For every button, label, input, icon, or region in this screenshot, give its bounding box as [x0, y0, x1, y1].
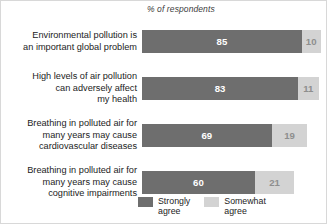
bar-segment-strongly-agree[interactable]: 85: [142, 30, 302, 53]
row-label-line: Breathing in polluted air for: [1, 165, 137, 176]
bar-value-strongly-agree: 83: [215, 84, 226, 94]
bar-track: 60 21: [142, 171, 294, 194]
chart-legend: Strongly agree Somewhat agree: [138, 196, 280, 216]
row-label-line: Environmental pollution is: [1, 30, 137, 41]
row-label: Environmental pollution is an important …: [1, 30, 142, 53]
bar-segment-somewhat-agree[interactable]: 19: [272, 124, 308, 147]
chart-row: Breathing in polluted air for many years…: [1, 112, 327, 159]
axis-note: % of respondents: [147, 4, 215, 14]
row-label: Breathing in polluted air for many years…: [1, 118, 142, 152]
chart-row: High levels of air pollution can adverse…: [1, 65, 327, 112]
bar-value-somewhat-agree: 21: [269, 178, 280, 188]
row-label-line: cardiovascular diseases: [1, 141, 137, 152]
bar-value-somewhat-agree: 11: [303, 84, 313, 94]
legend-label-line: agree: [158, 206, 181, 216]
legend-label-line: Somewhat: [224, 196, 266, 206]
bar-segment-strongly-agree[interactable]: 83: [142, 77, 298, 100]
bar-segment-strongly-agree[interactable]: 60: [142, 171, 255, 194]
bar-segment-strongly-agree[interactable]: 69: [142, 124, 272, 147]
legend-item-somewhat-agree[interactable]: Somewhat agree: [204, 196, 266, 216]
legend-swatch-icon: [138, 197, 153, 207]
bar-track: 85 10: [142, 30, 321, 53]
bar-segment-somewhat-agree[interactable]: 21: [255, 171, 294, 194]
row-label-line: an important global problem: [1, 42, 137, 53]
stacked-bar-chart: % of respondents Environmental pollution…: [0, 0, 327, 224]
bar-segment-somewhat-agree[interactable]: 11: [298, 77, 319, 100]
row-label-line: High levels of air pollution: [1, 71, 137, 82]
legend-label: Somewhat agree: [224, 196, 266, 216]
bar-value-somewhat-agree: 10: [306, 37, 317, 47]
legend-label-line: Strongly: [158, 196, 190, 206]
row-label-line: can adversely affect: [1, 83, 137, 94]
chart-rows: Environmental pollution is an important …: [1, 18, 327, 206]
legend-swatch-icon: [204, 197, 219, 207]
bar-value-somewhat-agree: 19: [284, 131, 295, 141]
bar-value-strongly-agree: 69: [202, 131, 213, 141]
bar-track: 69 19: [142, 124, 307, 147]
row-label-line: many years may cause: [1, 130, 137, 141]
row-label: Breathing in polluted air for many years…: [1, 165, 142, 199]
bar-value-strongly-agree: 85: [217, 37, 228, 47]
bar-track: 83 11: [142, 77, 319, 100]
legend-item-strongly-agree[interactable]: Strongly agree: [138, 196, 190, 216]
chart-row: Environmental pollution is an important …: [1, 18, 327, 65]
legend-label-line: agree: [224, 206, 247, 216]
row-label-line: my health: [1, 94, 137, 105]
row-label-line: cognitive impairments: [1, 188, 137, 199]
legend-label: Strongly agree: [158, 196, 190, 216]
row-label-line: Breathing in polluted air for: [1, 118, 137, 129]
row-label: High levels of air pollution can adverse…: [1, 71, 142, 105]
bar-value-strongly-agree: 60: [193, 178, 204, 188]
bar-segment-somewhat-agree[interactable]: 10: [302, 30, 321, 53]
row-label-line: many years may cause: [1, 177, 137, 188]
